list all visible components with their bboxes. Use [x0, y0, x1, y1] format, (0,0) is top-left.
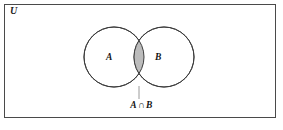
caption-right-set: B [146, 100, 153, 110]
venn-diagram-figure: U A B A∩B [0, 0, 283, 130]
set-b-label: B [155, 53, 161, 63]
venn-circles-graphic [0, 0, 283, 130]
set-a-label: A [106, 53, 112, 63]
caption-left-set: A [130, 100, 137, 110]
intersection-operator-symbol: ∩ [137, 100, 146, 110]
figure-caption: A∩B [0, 101, 283, 111]
